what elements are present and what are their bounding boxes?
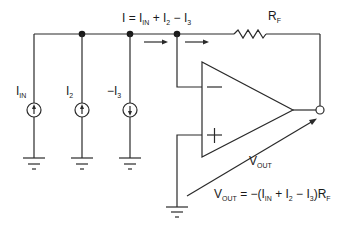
output-terminal [316, 106, 324, 114]
source-2-label: I2 [66, 84, 73, 99]
noninverting-input-wire [177, 135, 202, 207]
output-equation: VOUT = −(IIN + I2 − I3)RF [214, 187, 331, 202]
current-arrow-icon [144, 40, 168, 45]
arrow-up-icon [32, 104, 36, 109]
opamp-triangle [202, 62, 293, 157]
source-in-label: IIN [16, 84, 26, 99]
current-source-2 [71, 34, 93, 169]
current-source-in [23, 34, 45, 169]
resistor-label: RF [268, 9, 281, 24]
ground-icon [166, 207, 188, 217]
noninverting-sign [207, 128, 222, 143]
feedback-resistor [234, 30, 266, 38]
arrow-down-icon [128, 111, 132, 116]
vout-label: VOUT [249, 154, 273, 169]
source-3-label: −I3 [107, 84, 121, 99]
current-sum-label: I = IIN + I2 − I3 [122, 11, 191, 26]
current-arrow-icon [185, 40, 209, 45]
arrow-up-icon [80, 104, 84, 109]
summing-amplifier-diagram: I = IIN + I2 − I3 RF IIN I2 −I3 [0, 0, 342, 227]
current-source-3 [119, 34, 141, 169]
